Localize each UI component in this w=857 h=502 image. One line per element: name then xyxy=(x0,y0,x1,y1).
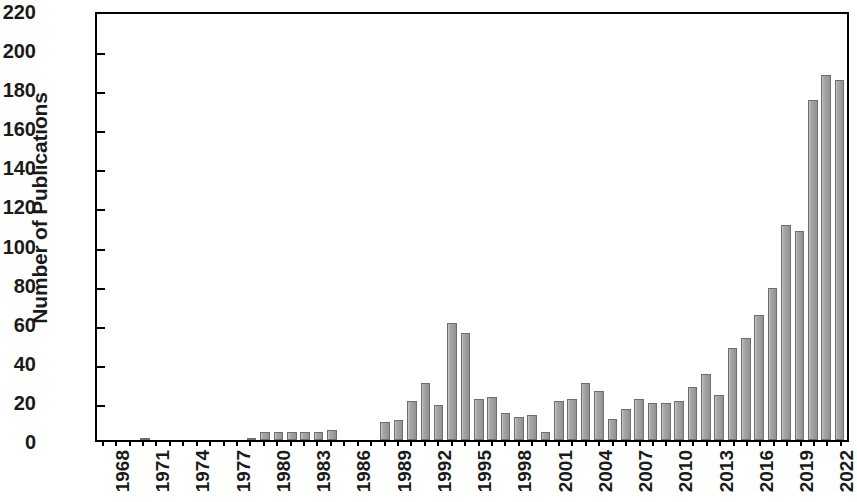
bar-slot xyxy=(539,14,552,440)
y-tick-mark xyxy=(96,170,105,172)
x-tick-mark xyxy=(316,440,318,446)
x-tick-mark xyxy=(437,440,439,446)
x-tick-slot xyxy=(619,440,632,448)
x-label-slot xyxy=(767,448,780,502)
bar-2020 xyxy=(795,231,805,440)
x-label-slot: 1968 xyxy=(96,448,109,502)
x-label-slot xyxy=(150,448,163,502)
x-tick-slot xyxy=(190,440,203,448)
bar-1999 xyxy=(514,417,524,440)
x-tick-slot xyxy=(566,440,579,448)
bar-slot xyxy=(659,14,672,440)
bar-2000 xyxy=(527,415,537,440)
x-label-slot: 1989 xyxy=(378,448,391,502)
bar-slot xyxy=(819,14,832,440)
bar-slot xyxy=(405,14,418,440)
x-label-slot xyxy=(123,448,136,502)
y-tick-label: 140 xyxy=(0,157,36,180)
x-tick-slot xyxy=(203,440,216,448)
bar-slot xyxy=(98,14,111,440)
bar-1981 xyxy=(274,432,284,440)
x-tick-mark xyxy=(813,440,815,446)
x-tick-slot xyxy=(807,440,820,448)
bar-slot xyxy=(632,14,645,440)
x-label-slot: 1998 xyxy=(499,448,512,502)
bar-slot xyxy=(485,14,498,440)
x-label-slot: 1986 xyxy=(338,448,351,502)
x-tick-mark xyxy=(679,440,681,446)
y-tick-mark xyxy=(96,53,105,55)
x-tick-mark xyxy=(410,440,412,446)
x-label-slot xyxy=(445,448,458,502)
bar-slot xyxy=(526,14,539,440)
bar-2018 xyxy=(768,288,778,440)
x-tick-slot xyxy=(338,440,351,448)
x-tick-slot xyxy=(109,440,122,448)
x-label-slot xyxy=(754,448,767,502)
x-tick-mark xyxy=(733,440,735,446)
x-tick-mark xyxy=(598,440,600,446)
bar-slot xyxy=(178,14,191,440)
x-label-slot xyxy=(351,448,364,502)
x-label-slot xyxy=(230,448,243,502)
x-tick-mark xyxy=(826,440,828,446)
x-label-slot: 1977 xyxy=(217,448,230,502)
x-label-slot: 1992 xyxy=(418,448,431,502)
bar-slot xyxy=(833,14,846,440)
x-label-slot xyxy=(566,448,579,502)
bar-1997 xyxy=(487,397,497,440)
x-tick-mark xyxy=(142,440,144,446)
x-tick-slot xyxy=(727,440,740,448)
bar-slot xyxy=(445,14,458,440)
x-tick-slot xyxy=(364,440,377,448)
bar-2022 xyxy=(821,75,831,441)
x-tick-mark xyxy=(343,440,345,446)
x-tick-mark xyxy=(290,440,292,446)
x-tick-slot xyxy=(485,440,498,448)
y-tick-label: 80 xyxy=(0,274,36,297)
x-label-slot xyxy=(794,448,807,502)
bar-slot xyxy=(592,14,605,440)
bar-1994 xyxy=(447,323,457,440)
bar-slot xyxy=(459,14,472,440)
y-tick-label: 60 xyxy=(0,313,36,336)
bar-1996 xyxy=(474,399,484,440)
bar-2013 xyxy=(701,374,711,440)
bar-1995 xyxy=(461,333,471,441)
x-tick-mark xyxy=(451,440,453,446)
x-tick-slot xyxy=(499,440,512,448)
y-tick-mark xyxy=(96,131,105,133)
y-tick-label: 180 xyxy=(0,79,36,102)
bar-slot xyxy=(766,14,779,440)
x-tick-mark xyxy=(719,440,721,446)
x-label-slot xyxy=(391,448,404,502)
bar-slot xyxy=(793,14,806,440)
x-tick-mark xyxy=(518,440,520,446)
bar-2011 xyxy=(674,401,684,440)
bar-slot xyxy=(138,14,151,440)
bar-slot xyxy=(672,14,685,440)
x-tick-mark xyxy=(491,440,493,446)
x-label-slot xyxy=(190,448,203,502)
x-tick-mark xyxy=(102,440,104,446)
x-tick-mark xyxy=(196,440,198,446)
bar-slot xyxy=(686,14,699,440)
bar-2001 xyxy=(541,432,551,440)
x-label-slot xyxy=(284,448,297,502)
bar-slot xyxy=(165,14,178,440)
x-tick-mark xyxy=(370,440,372,446)
bar-slot xyxy=(579,14,592,440)
bar-slot xyxy=(205,14,218,440)
bar-1998 xyxy=(501,413,511,440)
x-label-slot xyxy=(646,448,659,502)
bar-slot xyxy=(298,14,311,440)
x-tick-slot xyxy=(297,440,310,448)
y-tick-label: 40 xyxy=(0,352,36,375)
x-tick-slot xyxy=(270,440,283,448)
x-label-slot: 2022 xyxy=(821,448,834,502)
x-tick-slot xyxy=(673,440,686,448)
y-axis-tick-labels: 020406080100120140160180200220 xyxy=(0,0,95,502)
bar-slot xyxy=(312,14,325,440)
x-tick-slot xyxy=(834,440,847,448)
bar-slot xyxy=(151,14,164,440)
